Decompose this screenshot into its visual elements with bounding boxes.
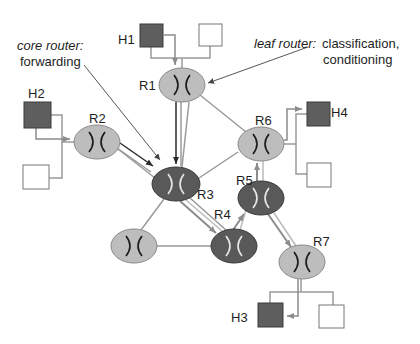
link-r3-r6 bbox=[199, 152, 238, 178]
host-h2-peer[interactable] bbox=[23, 165, 49, 189]
label-r5: R5 bbox=[236, 173, 253, 188]
flow-r5-r7-b bbox=[274, 213, 296, 246]
router-r7[interactable] bbox=[279, 245, 325, 279]
router-r2[interactable] bbox=[74, 125, 120, 159]
link-r1-r3 bbox=[182, 102, 189, 167]
label-h4: H4 bbox=[331, 105, 348, 120]
label-r3: R3 bbox=[197, 187, 214, 202]
label-h2: H2 bbox=[28, 86, 45, 101]
host-h2[interactable] bbox=[24, 102, 51, 128]
host-h4[interactable] bbox=[307, 102, 330, 126]
router-r1[interactable] bbox=[159, 68, 205, 102]
callout-leaf-arrow bbox=[208, 47, 308, 83]
leaf-router-title: leaf router: bbox=[254, 36, 317, 51]
host-h1[interactable] bbox=[140, 24, 163, 47]
router-r3[interactable] bbox=[152, 167, 200, 201]
flow-h2-r2 bbox=[36, 128, 70, 139]
flow-r7-h3 bbox=[287, 279, 298, 316]
network-diagram: H1 H2 H3 H4 R1 R2 R3 R4 R5 R6 R7 core ro… bbox=[0, 0, 420, 344]
leaf-router-desc-1: classification, bbox=[322, 36, 399, 51]
host-h3[interactable] bbox=[258, 303, 283, 327]
flow-r5-r7-a bbox=[268, 214, 291, 247]
label-r7: R7 bbox=[313, 234, 330, 249]
host-h4-peer[interactable] bbox=[307, 163, 331, 187]
label-r1: R1 bbox=[139, 78, 156, 93]
wire-h1-r1 bbox=[151, 46, 210, 58]
link-r3-r8 bbox=[141, 199, 164, 230]
label-h3: H3 bbox=[231, 310, 248, 325]
core-router-title: core router: bbox=[17, 38, 84, 53]
router-r6[interactable] bbox=[238, 127, 284, 161]
label-h1: H1 bbox=[118, 32, 135, 47]
host-h1-peer[interactable] bbox=[199, 24, 222, 46]
flow-h1-r1 bbox=[164, 35, 175, 65]
host-h3-peer[interactable] bbox=[319, 305, 344, 328]
label-r4: R4 bbox=[214, 207, 231, 222]
label-r2: R2 bbox=[89, 111, 106, 126]
flow-r2-r3-gray bbox=[117, 148, 151, 172]
link-r1-r6 bbox=[200, 95, 246, 132]
router-r4[interactable] bbox=[211, 229, 257, 263]
core-router-desc: forwarding bbox=[20, 54, 81, 69]
leaf-router-desc-2: conditioning bbox=[323, 52, 392, 67]
router-unlabeled[interactable] bbox=[111, 229, 157, 263]
wire-h4-bus bbox=[296, 114, 307, 174]
label-r6: R6 bbox=[255, 113, 272, 128]
